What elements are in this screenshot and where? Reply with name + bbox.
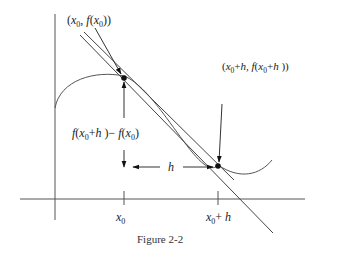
label-point-x0: (x0, f(x0)) xyxy=(67,13,111,29)
arrow-to-point-x0 xyxy=(95,28,121,74)
label-difference: f(x0+h )− f(x0) xyxy=(72,126,139,142)
label-h: h xyxy=(168,160,174,174)
arrow-to-point-x0-plus-h xyxy=(219,104,222,162)
point-x0-plus-h xyxy=(215,163,221,169)
secant-line xyxy=(84,32,234,180)
point-x0 xyxy=(121,75,127,81)
tick-label-x0: x0 xyxy=(115,210,125,226)
tick-label-x0-plus-h: x0+ h xyxy=(205,210,231,226)
function-curve xyxy=(55,74,272,174)
figure-caption: Figure 2-2 xyxy=(137,233,183,245)
derivative-figure: (x0, f(x0)) (x0+h, f(x0+h )) f(x0+h )− f… xyxy=(0,0,337,255)
label-point-x0-plus-h: (x0+h, f(x0+h )) xyxy=(222,60,289,75)
